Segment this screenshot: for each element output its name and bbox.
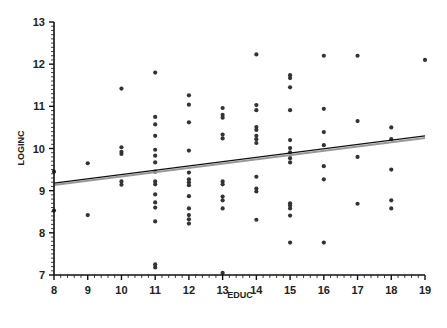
- data-point: [389, 198, 393, 202]
- data-point: [86, 213, 90, 217]
- data-point: [153, 200, 157, 204]
- data-point: [119, 183, 123, 187]
- data-point: [187, 217, 191, 221]
- x-tick-label: 19: [419, 284, 431, 296]
- data-point: [288, 240, 292, 244]
- data-point: [254, 128, 258, 132]
- data-point: [153, 154, 157, 158]
- data-point: [389, 167, 393, 171]
- data-point: [322, 143, 326, 147]
- data-point: [288, 156, 292, 160]
- scatter-chart: 789101112138910111213141516171819 EDUC L…: [0, 0, 447, 328]
- data-point: [254, 108, 258, 112]
- regression-line-secondary: [54, 138, 425, 185]
- y-tick-label: 11: [33, 100, 45, 112]
- data-point: [187, 103, 191, 107]
- data-point: [153, 205, 157, 209]
- data-point: [187, 170, 191, 174]
- data-point: [254, 52, 258, 56]
- data-point: [153, 115, 157, 119]
- data-point: [389, 206, 393, 210]
- data-point: [119, 152, 123, 156]
- data-point: [221, 136, 225, 140]
- data-point: [221, 116, 225, 120]
- data-point: [119, 87, 123, 91]
- data-point: [153, 182, 157, 186]
- x-tick-label: 11: [149, 284, 161, 296]
- y-tick-label: 13: [33, 16, 45, 28]
- x-tick-label: 17: [351, 284, 363, 296]
- data-point: [187, 213, 191, 217]
- y-tick-label: 9: [39, 185, 45, 197]
- data-point: [322, 177, 326, 181]
- data-point: [288, 160, 292, 164]
- data-point: [288, 108, 292, 112]
- data-point: [221, 106, 225, 110]
- data-point: [322, 164, 326, 168]
- x-tick-label: 18: [385, 284, 397, 296]
- x-tick-label: 12: [183, 284, 195, 296]
- data-point: [153, 122, 157, 126]
- data-point: [322, 240, 326, 244]
- data-point: [389, 125, 393, 129]
- y-tick-label: 7: [39, 269, 45, 281]
- y-tick-label: 10: [33, 143, 45, 155]
- x-axis-label: EDUC: [227, 290, 253, 300]
- x-tick-label: 8: [51, 284, 57, 296]
- data-point: [187, 93, 191, 97]
- y-tick-label: 8: [39, 227, 45, 239]
- data-point: [288, 146, 292, 150]
- data-point: [254, 137, 258, 141]
- data-point: [153, 148, 157, 152]
- regression-line: [54, 136, 425, 183]
- x-tick-label: 10: [115, 284, 127, 296]
- data-point: [221, 206, 225, 210]
- x-tick-label: 16: [318, 284, 330, 296]
- data-point: [322, 107, 326, 111]
- data-point: [254, 141, 258, 145]
- data-point: [322, 54, 326, 58]
- data-point: [221, 132, 225, 136]
- data-point: [288, 138, 292, 142]
- data-point: [355, 54, 359, 58]
- x-tick-label: 15: [284, 284, 296, 296]
- data-point: [153, 265, 157, 269]
- data-point: [423, 58, 427, 62]
- data-point: [153, 219, 157, 223]
- data-point: [153, 134, 157, 138]
- data-point: [254, 189, 258, 193]
- y-axis-label: LOGINC: [16, 130, 26, 165]
- y-tick-label: 12: [33, 58, 45, 70]
- data-point: [288, 85, 292, 89]
- data-point: [355, 119, 359, 123]
- data-point: [86, 161, 90, 165]
- data-point: [355, 155, 359, 159]
- axes: 789101112138910111213141516171819: [33, 16, 431, 296]
- data-point: [153, 160, 157, 164]
- data-point: [322, 130, 326, 134]
- data-point: [187, 183, 191, 187]
- data-point: [221, 182, 225, 186]
- x-tick-label: 9: [85, 284, 91, 296]
- data-point: [254, 175, 258, 179]
- data-point: [254, 218, 258, 222]
- data-point: [288, 206, 292, 210]
- data-point: [221, 198, 225, 202]
- regression-lines: [54, 136, 425, 185]
- data-point: [288, 213, 292, 217]
- data-point: [355, 202, 359, 206]
- data-point: [187, 149, 191, 153]
- data-point: [187, 206, 191, 210]
- data-point: [187, 221, 191, 225]
- data-point: [153, 192, 157, 196]
- data-point: [119, 145, 123, 149]
- data-point: [221, 194, 225, 198]
- data-point: [254, 103, 258, 107]
- data-point: [288, 76, 292, 80]
- data-point: [187, 194, 191, 198]
- data-point: [153, 71, 157, 75]
- data-point: [187, 120, 191, 124]
- data-points: [52, 52, 427, 275]
